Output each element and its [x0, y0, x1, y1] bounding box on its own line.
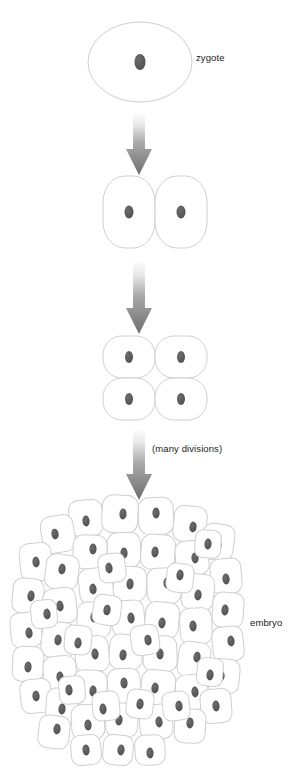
down-arrow-icon [126, 262, 152, 334]
stage-four-cell [103, 336, 207, 420]
nucleus [177, 206, 186, 219]
stage-two-cell [103, 176, 207, 248]
stage-zygote [88, 22, 192, 102]
embryo-development-diagram: zygote (many divisions) embryo [0, 0, 305, 773]
nucleus [177, 393, 185, 405]
label-many-divisions: (many divisions) [152, 443, 222, 454]
embryo-cell [91, 690, 120, 721]
arrow-two-to-four-cell [126, 262, 152, 334]
nucleus [125, 393, 133, 405]
nucleus [177, 351, 185, 363]
nucleus [125, 351, 133, 363]
down-arrow-icon [126, 114, 152, 175]
label-embryo: embryo [250, 617, 282, 628]
label-zygote: zygote [196, 52, 225, 63]
nucleus [125, 206, 134, 219]
arrow-zygote-to-two-cell [126, 114, 152, 175]
arrow-four-cell-to-embryo [126, 430, 152, 500]
embryo-cell [211, 625, 245, 663]
nucleus [135, 54, 146, 70]
diagram-canvas [0, 0, 305, 773]
down-arrow-icon [126, 430, 152, 500]
stage-embryo-cell-mass [9, 494, 245, 766]
